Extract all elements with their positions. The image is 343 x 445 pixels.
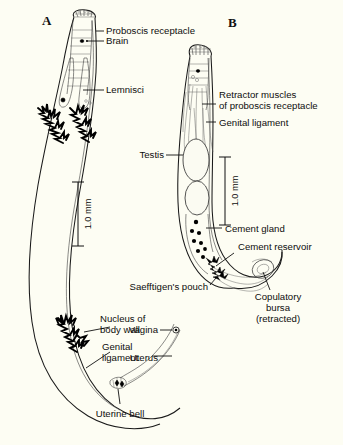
label-cement-gland: Cement gland xyxy=(225,223,285,234)
panel-letter-b: B xyxy=(228,15,237,30)
label-genital-ligament-a-line1: Genital xyxy=(102,341,132,352)
label-copulatory-bursa-line1: Copulatory xyxy=(255,291,302,302)
scale-bar-b-label: 1.0 mm xyxy=(230,175,240,206)
label-uterine-bell: Uterine bell xyxy=(96,408,145,419)
brain-leader-dot xyxy=(86,40,88,42)
label-uterus: Uterus xyxy=(130,352,158,363)
testis-posterior xyxy=(185,181,209,215)
brain-structure-b xyxy=(196,70,200,73)
label-retractor-muscles-line2: of proboscis receptacle xyxy=(219,100,318,111)
label-brain: Brain xyxy=(106,35,128,46)
scale-bar-a-label: 1.0 mm xyxy=(83,198,93,229)
label-copulatory-bursa-line2: bursa xyxy=(266,302,291,313)
label-lemnisci: Lemnisci xyxy=(106,84,144,95)
figure-background xyxy=(0,0,343,445)
panel-letter-a: A xyxy=(42,13,52,28)
label-cement-reservoir: Cement reservoir xyxy=(238,241,312,252)
label-copulatory-bursa-line3: (retracted) xyxy=(256,313,300,324)
anatomical-figure: A xyxy=(0,0,343,445)
brain-structure xyxy=(80,40,84,43)
label-genital-ligament-b: Genital ligament xyxy=(219,117,289,128)
label-vagina: Vagina xyxy=(129,324,159,335)
label-testis: Testis xyxy=(139,149,164,160)
label-retractor-muscles-line1: Retractor muscles xyxy=(219,89,297,100)
label-nucleus-of-body-wall-line1: Nucleus of xyxy=(100,313,146,324)
testis-anterior xyxy=(183,139,209,181)
label-saefftigens-pouch: Saefftigen's pouch xyxy=(130,281,208,292)
